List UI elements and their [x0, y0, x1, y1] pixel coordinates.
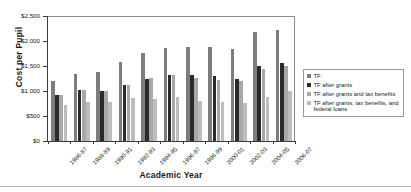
bar	[172, 75, 176, 142]
bar	[288, 91, 292, 142]
bar	[74, 74, 78, 141]
bar	[253, 32, 257, 141]
y-axis-tick-label: $0	[10, 138, 40, 144]
legend-item: TF after grants and tax benefits	[306, 91, 401, 97]
bar-group	[250, 16, 272, 141]
x-axis-tick-label: 2004-05	[271, 146, 291, 166]
x-axis-tick	[138, 141, 139, 144]
bar	[276, 30, 280, 141]
x-axis-tick	[183, 141, 184, 144]
x-axis-tick	[250, 141, 251, 144]
y-axis-tick-label: $1,000	[10, 88, 40, 94]
bar	[123, 85, 127, 141]
legend-swatch-icon	[307, 83, 311, 87]
x-axis-tick	[160, 141, 161, 144]
bar	[194, 78, 198, 141]
bar-group	[205, 16, 227, 141]
bar-group	[138, 16, 160, 141]
x-axis-tick-label: 1986-87	[69, 146, 89, 166]
legend-swatch-icon	[307, 101, 311, 105]
bar	[100, 91, 104, 141]
bar	[119, 62, 123, 141]
bar	[190, 75, 194, 141]
bar	[239, 81, 243, 141]
x-axis-title: Academic Year	[47, 170, 295, 180]
bar	[51, 81, 55, 141]
legend-item: TF after grants	[306, 82, 401, 88]
chart-canvas: Cost per Pupil $0$500$1,000$1,500$2,000$…	[0, 0, 411, 192]
legend-item-label: TF after grants, tax benefits, and feder…	[314, 100, 402, 113]
legend-item-label: TF after grants	[314, 82, 353, 88]
bar	[108, 102, 112, 141]
x-axis-tick-label: 1988-89	[91, 146, 111, 166]
y-axis-tick-label: $2,500	[10, 13, 40, 19]
bar	[221, 102, 225, 141]
bar-group	[48, 16, 70, 141]
bar-series-container	[48, 16, 295, 141]
bar	[262, 69, 266, 141]
chart-legend: TFTF after grantsTF after grants and tax…	[303, 69, 404, 117]
x-axis-line	[47, 141, 296, 142]
y-axis-tick-label: $1,500	[10, 63, 40, 69]
bar	[131, 98, 135, 141]
bar	[78, 90, 82, 141]
bar	[284, 66, 288, 141]
y-axis-tick-label: $2,000	[10, 38, 40, 44]
bar	[208, 47, 212, 141]
x-axis-tick	[273, 141, 274, 144]
bar	[217, 80, 221, 141]
y-axis-tick-label: $500	[10, 113, 40, 119]
bar	[257, 66, 261, 141]
bar	[153, 99, 157, 142]
legend-item: TF after grants, tax benefits, and feder…	[306, 100, 401, 113]
bar	[96, 72, 100, 141]
x-axis-tick	[115, 141, 116, 144]
bar	[266, 97, 270, 142]
bar-group	[70, 16, 92, 141]
x-axis-tick-label: 2006-07	[293, 146, 313, 166]
legend-item: TF	[306, 73, 401, 79]
bar	[280, 63, 284, 141]
bar	[168, 75, 172, 142]
x-axis-tick-label: 1998-99	[203, 146, 223, 166]
x-axis-tick-label: 1992-93	[136, 146, 156, 166]
x-axis-tick-label: 1990-91	[114, 146, 134, 166]
x-axis-tick-label: 2000-01	[226, 146, 246, 166]
legend-item-label: TF	[314, 73, 321, 79]
bar	[186, 47, 190, 142]
x-axis-tick	[48, 141, 49, 144]
bar-group	[228, 16, 250, 141]
x-axis-tick-label: 2002-03	[248, 146, 268, 166]
bar	[82, 90, 86, 141]
bar-group	[273, 16, 295, 141]
bar	[59, 95, 63, 141]
legend-swatch-icon	[307, 92, 311, 96]
bar	[243, 103, 247, 141]
bar	[86, 102, 90, 141]
bar	[64, 105, 68, 141]
x-axis-tick	[295, 141, 296, 144]
bar-group	[93, 16, 115, 141]
bar	[164, 48, 168, 141]
x-axis-tick	[228, 141, 229, 144]
bar	[149, 78, 153, 141]
bar	[104, 91, 108, 141]
bar	[231, 49, 235, 141]
bar	[145, 79, 149, 142]
bar-group	[160, 16, 182, 141]
x-axis-tick-label: 1996-97	[181, 146, 201, 166]
bar	[176, 97, 180, 141]
x-axis-tick	[205, 141, 206, 144]
legend-swatch-icon	[307, 74, 311, 78]
bar	[198, 101, 202, 141]
bar	[235, 79, 239, 141]
legend-item-label: TF after grants and tax benefits	[314, 91, 396, 97]
bottom-divider	[0, 186, 411, 187]
x-axis-tick	[93, 141, 94, 144]
x-axis-tick	[70, 141, 71, 144]
x-axis-tick-label: 1994-95	[158, 146, 178, 166]
bar	[55, 95, 59, 141]
bar-group	[115, 16, 137, 141]
bar	[141, 53, 145, 141]
bar-group	[183, 16, 205, 141]
